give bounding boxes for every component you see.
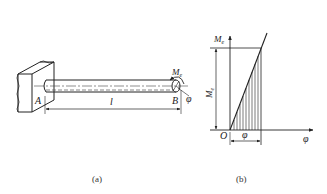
torsion-diagram: A B l Me φ (a) Me: [0, 0, 327, 194]
caption-a: (a): [92, 174, 102, 184]
label-origin: O: [220, 130, 227, 141]
label-dim-twist: φ: [242, 129, 248, 140]
label-y-axis: Me: [213, 34, 225, 45]
shaft: [34, 77, 190, 96]
torque-line: [230, 33, 267, 130]
caption-b: (b): [236, 174, 247, 184]
label-length: l: [110, 96, 113, 107]
label-x-axis: φ: [303, 133, 309, 144]
label-a: A: [34, 95, 42, 106]
length-dimension: [45, 90, 181, 114]
figure-a: A B l Me φ (a): [17, 61, 192, 184]
label-twist-angle: φ: [186, 93, 192, 104]
label-b: B: [172, 95, 178, 106]
label-torque: Me: [171, 67, 183, 78]
label-dim-torque: Me: [204, 88, 215, 100]
figure-b: Me φ O φ Me (b): [204, 33, 313, 184]
